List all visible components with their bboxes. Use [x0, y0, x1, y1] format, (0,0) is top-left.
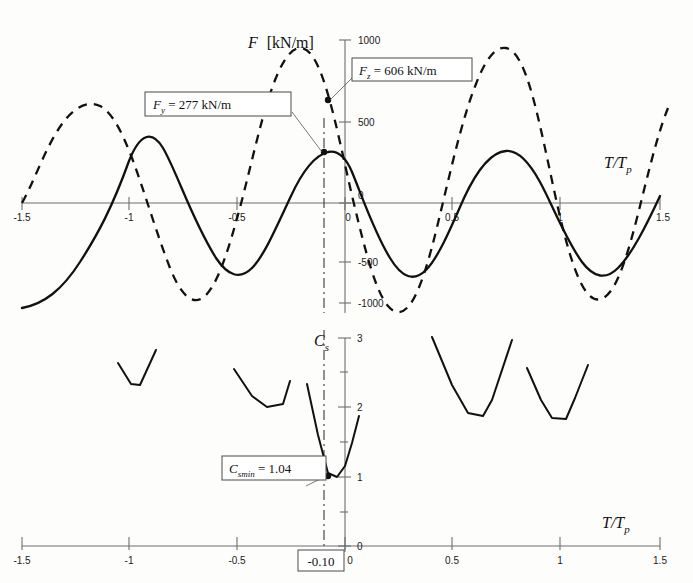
lower-xtick-label: 0.5: [445, 555, 459, 566]
upper-xtick-label: -1.5: [13, 212, 31, 223]
lower-xtick-label: 1: [557, 555, 563, 566]
fy-callout: Fy = 277 kN/m: [145, 92, 322, 152]
lower-xtick-label: -1.5: [13, 555, 31, 566]
chart-svg: -1.5 -1 -0.5 0 0.5 1 1.5 1000 500 0 -500…: [0, 0, 693, 583]
upper-ytick-label: 1000: [358, 35, 381, 46]
lower-x-ticks: [22, 537, 660, 550]
lower-ytick-label: 0: [357, 541, 363, 552]
fz-callout-rest: = 606 kN/m: [370, 63, 436, 78]
fz-callout: Fz = 606 kN/m: [330, 58, 472, 100]
lower-x-axis-title-symbol: T/T: [602, 514, 625, 531]
curve-cs-branch-4: [432, 337, 512, 416]
upper-x-axis-title-symbol: T/T: [604, 154, 627, 171]
upper-xtick-label: 1.5: [656, 212, 670, 223]
curve-cs-branch-2: [234, 369, 290, 407]
upper-x-axis-title: T/Tp: [604, 154, 632, 175]
lower-xtick-label: -1: [125, 555, 134, 566]
lower-y-axis-title-sub: s: [325, 341, 329, 353]
csmin-callout: Csmin = 1.04: [222, 456, 326, 486]
curve-fy: [22, 137, 660, 308]
upper-xtick-label: -1: [125, 212, 134, 223]
upper-xtick-label: 0: [345, 212, 351, 223]
lower-xtick-label: 0: [347, 555, 353, 566]
lower-y-axis-title: Cs: [314, 332, 329, 353]
upper-y-axis-title-symbol: F: [247, 34, 258, 51]
cut-value-box: -0.10: [298, 550, 344, 571]
csmin-callout-rest: = 1.04: [255, 461, 292, 476]
lower-x-axis-title-sub: p: [623, 523, 630, 535]
upper-ytick-label: 500: [358, 117, 375, 128]
lower-xtick-label: -0.5: [228, 555, 246, 566]
csmin-callout-sub: smin: [238, 469, 256, 479]
lower-ytick-label: 1: [357, 472, 363, 483]
upper-x-axis-title-sub: p: [625, 163, 632, 175]
lower-chart: -1.5 -1 -0.5 0 0.5 1 1.5 3 2 1 0 Cs T/Tp: [13, 330, 667, 571]
cut-value-box-text: -0.10: [307, 554, 334, 569]
curve-cs-branch-5: [527, 365, 588, 419]
upper-ytick-label: -1000: [358, 298, 384, 309]
lower-y-axis-title-symbol: C: [314, 332, 325, 349]
csmin-callout-symbol: C: [229, 461, 238, 476]
lower-x-axis-title: T/Tp: [602, 514, 630, 535]
lower-xtick-label: 1.5: [653, 555, 667, 566]
figure-container: -1.5 -1 -0.5 0 0.5 1 1.5 1000 500 0 -500…: [0, 0, 693, 583]
upper-chart: -1.5 -1 -0.5 0 0.5 1 1.5 1000 500 0 -500…: [13, 34, 670, 313]
upper-y-axis-title-unit: [kN/m]: [267, 34, 314, 51]
lower-ytick-label: 3: [357, 333, 363, 344]
fy-callout-rest: = 277 kN/m: [165, 97, 231, 112]
curve-cs-branch-1: [118, 350, 156, 385]
lower-ytick-label: 2: [357, 402, 363, 413]
